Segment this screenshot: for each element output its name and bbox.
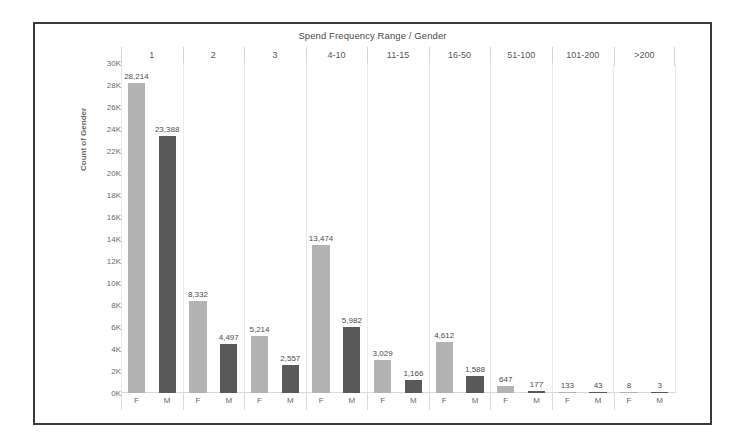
y-axis-tick-8K: 8K [111,301,121,310]
bar-slot: 3,029 [367,63,398,393]
bar-4-10-f[interactable]: 13,474 [312,245,329,393]
gender-tick-f: F [306,396,337,412]
bar-group-2: 8,3324,497 [183,63,245,393]
gender-tick-f: F [121,396,152,412]
category-label-text: 11-15 [387,50,409,60]
gender-label-group: FM [614,396,676,412]
bar-slot: 5,214 [244,63,275,393]
bar-slot: 1,166 [398,63,429,393]
bar-value-label: 177 [530,380,543,389]
bar-1-m[interactable]: 23,388 [159,136,176,393]
gender-group-divider [306,392,307,410]
bar-1-f[interactable]: 28,214 [128,83,145,393]
bar-value-label: 5,982 [342,316,362,325]
gender-tick-m: M [644,396,675,412]
bar-slot: 2,557 [275,63,306,393]
gender-group-divider [183,392,184,410]
category-label-text: 3 [272,50,277,60]
bar-4-10-m[interactable]: 5,982 [343,327,360,393]
bar-value-label: 28,214 [124,72,148,81]
bar-value-label: 13,474 [309,234,333,243]
category-label-2: 2 [183,46,245,63]
gender-tick-m: M [152,396,183,412]
y-axis-tick-28K: 28K [107,81,121,90]
bar-group-101-200: 13343 [552,63,614,393]
y-axis-tick-22K: 22K [107,147,121,156]
bar-value-label: 1,166 [403,369,423,378]
gender-tick-f: F [614,396,645,412]
gender-label-group: FM [244,396,306,412]
bar-101-200-m[interactable]: 43 [589,392,606,394]
gender-label-group: FM [121,396,183,412]
y-axis-title: Count of Gender [79,51,88,171]
gender-tick-f: F [244,396,275,412]
category-label-text: 1 [149,50,154,60]
category-label-text: 101-200 [566,50,599,60]
bar-slot: 8 [614,63,645,393]
category-label-text: 16-50 [448,50,471,60]
bar-slot: 28,214 [121,63,152,393]
bar-slot: 4,497 [213,63,244,393]
bar-slot: 13,474 [306,63,337,393]
bar-16-50-f[interactable]: 4,612 [436,342,453,393]
bar-11-15-f[interactable]: 3,029 [374,360,391,393]
gender-tick-m: M [398,396,429,412]
gender-group-divider [429,392,430,410]
bar-group-51-100: 647177 [490,63,552,393]
y-axis-tick-2K: 2K [111,367,121,376]
bar-slot: 3 [644,63,675,393]
y-axis-tick-16K: 16K [107,213,121,222]
gender-label-group: FM [306,396,368,412]
bar-3-m[interactable]: 2,557 [282,365,299,393]
bar-slot: 5,982 [336,63,367,393]
bar--200-m[interactable]: 3 [651,392,668,394]
bar-group-16-50: 4,6121,588 [429,63,491,393]
chart-frame: Spend Frequency Range / Gender 1234-1011… [33,22,712,425]
y-axis-tick-24K: 24K [107,125,121,134]
gender-tick-m: M [583,396,614,412]
y-axis-tick-26K: 26K [107,103,121,112]
bar-16-50-m[interactable]: 1,588 [466,376,483,393]
gender-axis-row: FMFMFMFMFMFMFMFMFM [121,396,675,412]
gender-tick-f: F [552,396,583,412]
y-axis-tick-6K: 6K [111,323,121,332]
bar-value-label: 1,588 [465,365,485,374]
y-axis-tick-20K: 20K [107,169,121,178]
y-axis-tick-18K: 18K [107,191,121,200]
bar-slot: 4,612 [429,63,460,393]
bar-3-f[interactable]: 5,214 [251,336,268,393]
bar-value-label: 8,332 [188,290,208,299]
category-label-text: >200 [634,50,654,60]
bar-51-100-f[interactable]: 647 [497,386,514,393]
gender-label-group: FM [490,396,552,412]
bar-101-200-f[interactable]: 133 [559,392,576,394]
bar-2-f[interactable]: 8,332 [189,301,206,393]
bar-value-label: 8 [627,381,631,390]
gender-tick-f: F [490,396,521,412]
gender-group-divider [490,392,491,410]
gender-label-group: FM [552,396,614,412]
y-axis-tick-10K: 10K [107,279,121,288]
gender-group-divider [367,392,368,410]
gender-label-group: FM [183,396,245,412]
bar--200-f[interactable]: 8 [620,392,637,394]
gender-tick-f: F [367,396,398,412]
bar-value-label: 3 [657,381,661,390]
category-label-16-50: 16-50 [429,46,491,63]
bar-value-label: 4,612 [434,331,454,340]
bar-value-label: 5,214 [249,325,269,334]
plot-area: 28,21423,3888,3324,4975,2142,55713,4745,… [121,63,675,393]
bar-slot: 8,332 [183,63,214,393]
bar-11-15-m[interactable]: 1,166 [405,380,422,393]
chart-screenshot: Spend Frequency Range / Gender 1234-1011… [0,0,741,445]
category-label-3: 3 [244,46,306,63]
bar-2-m[interactable]: 4,497 [220,344,237,393]
bar-group--200: 83 [614,63,676,393]
bar-slot: 43 [583,63,614,393]
bar-51-100-m[interactable]: 177 [528,391,545,393]
gender-label-group: FM [367,396,429,412]
bar-group-4-10: 13,4745,982 [306,63,368,393]
category-label-4-10: 4-10 [306,46,368,63]
gender-tick-m: M [460,396,491,412]
bar-slot: 647 [490,63,521,393]
